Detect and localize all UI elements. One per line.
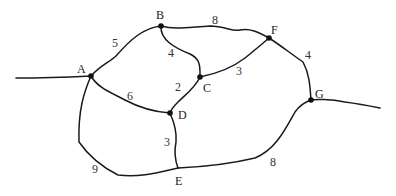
node-label-B: B xyxy=(156,8,164,22)
weight-B-F: 8 xyxy=(212,13,218,27)
weight-B-C: 4 xyxy=(168,46,174,60)
weight-A-D: 6 xyxy=(127,89,133,103)
edge-weights: 5 8 4 3 2 6 4 3 9 8 xyxy=(92,13,311,176)
weight-C-F: 3 xyxy=(236,64,242,78)
node-labels: A B C D E F G xyxy=(77,8,324,188)
node-A xyxy=(88,73,94,79)
node-C xyxy=(197,74,203,80)
node-G xyxy=(308,97,314,103)
edge-A-B xyxy=(91,26,161,76)
node-label-F: F xyxy=(271,23,278,37)
edge-B-F xyxy=(161,26,269,38)
edge-left-to-A xyxy=(16,76,91,78)
node-label-G: G xyxy=(315,87,324,101)
nodes xyxy=(88,23,314,116)
node-D xyxy=(167,110,173,116)
weight-D-E: 3 xyxy=(164,135,170,149)
graph-diagram: A B C D E F G 5 8 4 3 2 6 4 3 9 8 xyxy=(0,0,396,196)
weight-A-B: 5 xyxy=(112,36,118,50)
node-label-A: A xyxy=(77,62,86,76)
weight-C-D: 2 xyxy=(175,80,181,94)
edges xyxy=(16,26,380,176)
node-label-E: E xyxy=(175,174,182,188)
edge-D-E xyxy=(170,113,178,168)
edge-C-F xyxy=(200,38,269,77)
node-B xyxy=(158,23,164,29)
edge-B-C xyxy=(161,26,200,77)
weight-E-G: 8 xyxy=(270,155,276,169)
weight-F-G: 4 xyxy=(305,48,311,62)
node-label-D: D xyxy=(178,108,187,122)
weight-A-E: 9 xyxy=(92,162,98,176)
node-label-C: C xyxy=(203,81,211,95)
edge-E-G xyxy=(178,100,311,168)
